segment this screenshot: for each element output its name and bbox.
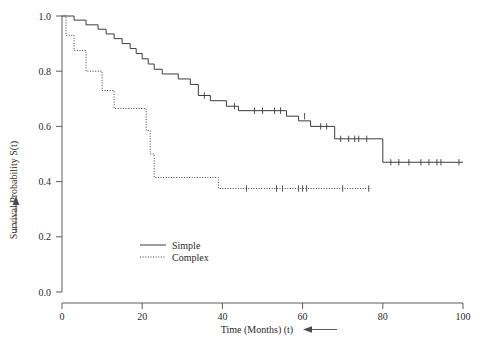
y-tick-label: 0.2 xyxy=(39,231,52,242)
x-tick-label: 0 xyxy=(60,311,65,322)
y-axis-title: Survival Probability S(t) xyxy=(8,141,20,239)
y-tick-label: 0.0 xyxy=(39,287,52,298)
x-tick-label: 60 xyxy=(298,311,308,322)
y-tick-label: 0.6 xyxy=(39,121,52,132)
complex-survival-curve xyxy=(62,16,371,189)
x-axis-title: Time (Months) (t) xyxy=(221,324,293,336)
kaplan-meier-plot: 0.00.20.40.60.81.0 020406080100 Survival… xyxy=(0,0,482,353)
y-tick-label: 0.8 xyxy=(39,66,52,77)
x-tick-label: 40 xyxy=(217,311,227,322)
x-axis-ticks: 020406080100 xyxy=(60,303,471,322)
x-tick-label: 20 xyxy=(137,311,147,322)
legend-label-simple: Simple xyxy=(172,240,201,251)
legend-label-complex: Complex xyxy=(172,252,209,263)
survival-curve-figure: 0.00.20.40.60.81.0 020406080100 Survival… xyxy=(0,0,482,353)
simple-censor-marks xyxy=(204,92,459,165)
x-tick-label: 100 xyxy=(456,311,471,322)
y-axis-ticks: 0.00.20.40.60.81.0 xyxy=(39,11,63,298)
x-axis-arrow-icon xyxy=(303,326,337,333)
simple-survival-curve xyxy=(62,16,463,162)
axes-group xyxy=(62,16,463,303)
x-tick-label: 80 xyxy=(378,311,388,322)
y-tick-label: 0.4 xyxy=(39,176,52,187)
y-tick-label: 1.0 xyxy=(39,11,52,22)
legend: SimpleComplex xyxy=(140,240,209,263)
